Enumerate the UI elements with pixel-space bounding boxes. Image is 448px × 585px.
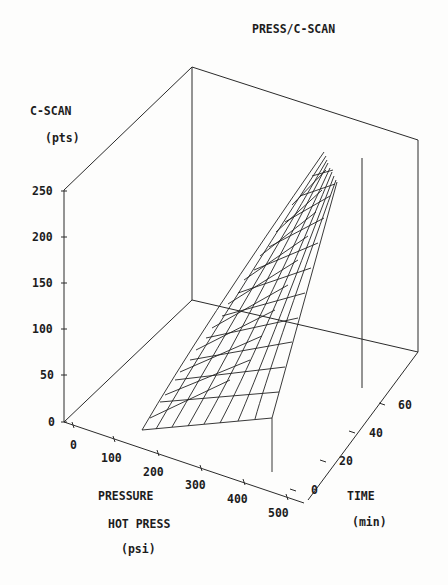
chart-title: PRESS/C-SCAN bbox=[252, 22, 335, 36]
svg-text:100: 100 bbox=[32, 322, 53, 336]
svg-text:60: 60 bbox=[398, 398, 412, 412]
axes-box bbox=[64, 67, 418, 503]
z-axis-unit: (pts) bbox=[45, 131, 80, 145]
x-axis-label: PRESSURE bbox=[98, 489, 153, 503]
y-axis-label: TIME bbox=[347, 489, 375, 503]
x-axis-unit: (psi) bbox=[121, 542, 156, 556]
svg-text:200: 200 bbox=[32, 230, 53, 244]
z-tick-labels: 250 200 150 100 50 0 bbox=[32, 184, 55, 429]
svg-text:500: 500 bbox=[268, 506, 289, 520]
svg-text:100: 100 bbox=[101, 451, 122, 465]
svg-text:0: 0 bbox=[311, 483, 318, 497]
z-axis-label: C-SCAN bbox=[30, 104, 72, 118]
svg-text:20: 20 bbox=[339, 454, 353, 468]
svg-text:250: 250 bbox=[32, 184, 53, 198]
pressure-tick-labels: 0 100 200 300 400 500 bbox=[70, 438, 289, 520]
surface-chart: PRESS/C-SCAN C-SCAN (pts) bbox=[0, 0, 448, 585]
time-tick-labels: 0 20 40 60 bbox=[311, 398, 412, 497]
svg-text:400: 400 bbox=[227, 492, 248, 506]
svg-text:50: 50 bbox=[40, 368, 54, 382]
x-axis-label-2: HOT PRESS bbox=[108, 517, 170, 531]
svg-text:300: 300 bbox=[185, 478, 206, 492]
svg-text:0: 0 bbox=[48, 415, 55, 429]
surface-wireframe bbox=[142, 152, 337, 472]
svg-text:0: 0 bbox=[70, 438, 77, 452]
svg-text:150: 150 bbox=[32, 276, 53, 290]
svg-text:200: 200 bbox=[143, 465, 164, 479]
svg-text:40: 40 bbox=[369, 426, 383, 440]
y-axis-unit: (min) bbox=[352, 515, 387, 529]
